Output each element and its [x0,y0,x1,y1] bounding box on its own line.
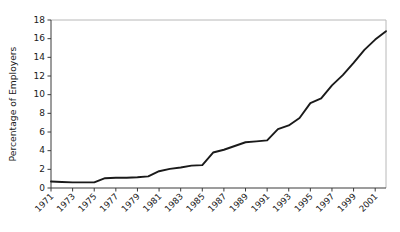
x-tick-label: 1981 [141,191,164,214]
x-tick-label: 1991 [249,191,272,214]
y-tick-label: 14 [34,52,46,62]
y-tick-label: 0 [39,183,45,193]
plot-frame [51,20,386,188]
data-series [51,31,386,182]
line-chart: 024681012141618 197119731975197719791981… [0,0,400,232]
y-tick-label: 10 [34,89,46,99]
x-tick-label: 1977 [98,191,121,214]
x-tick-label: 1979 [119,191,142,214]
x-tick-label: 1983 [163,191,186,214]
y-tick-label: 6 [39,127,45,137]
x-tick-label: 1971 [33,191,56,214]
y-tick-label: 4 [39,145,45,155]
y-tick-label: 12 [34,71,45,81]
y-axis-title: Percentage of Employers [7,46,18,161]
y-tick-label: 8 [39,108,45,118]
x-tick-label: 1995 [292,191,315,214]
x-tick-label: 1987 [206,191,229,214]
x-axis-ticks [51,188,375,192]
x-tick-label: 1993 [271,191,294,214]
x-tick-label: 1997 [314,191,337,214]
y-tick-label: 18 [34,15,46,25]
x-tick-label: 1999 [335,191,358,214]
x-tick-label: 1973 [54,191,77,214]
series-line [51,31,386,182]
y-axis-tick-labels: 024681012141618 [34,15,46,193]
y-axis-ticks [48,20,52,188]
y-tick-label: 16 [34,33,46,43]
x-tick-label: 2001 [357,191,380,214]
y-tick-label: 2 [39,164,45,174]
x-tick-label: 1985 [184,191,207,214]
x-tick-label: 1975 [76,191,99,214]
x-axis-tick-labels: 1971197319751977197919811983198519871989… [33,191,380,214]
chart-page: 024681012141618 197119731975197719791981… [0,0,400,232]
x-tick-label: 1989 [227,191,250,214]
